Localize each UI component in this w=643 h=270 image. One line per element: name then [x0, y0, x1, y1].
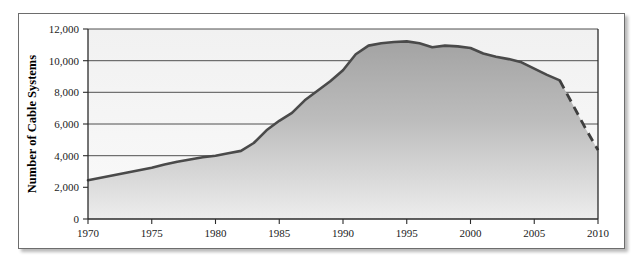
- x-tick-marks: [88, 219, 598, 224]
- chart-figure-card: 12,000 10,000 8,000 6,000 4,000 2,000 0 …: [18, 13, 625, 249]
- x-tick-label-1995: 1995: [396, 227, 419, 239]
- x-tick-label-1990: 1990: [332, 227, 355, 239]
- x-tick-labels: 1970 1975 1980 1985 1990 1995 2000 2005 …: [77, 227, 610, 239]
- y-tick-label-8000: 8,000: [54, 86, 79, 98]
- screenshot-root: 12,000 10,000 8,000 6,000 4,000 2,000 0 …: [0, 0, 643, 270]
- x-tick-label-1975: 1975: [141, 227, 164, 239]
- x-tick-label-2000: 2000: [460, 227, 483, 239]
- y-tick-label-4000: 4,000: [54, 150, 79, 162]
- x-tick-label-2005: 2005: [523, 227, 546, 239]
- x-tick-label-1970: 1970: [77, 227, 100, 239]
- y-tick-label-2000: 2,000: [54, 181, 79, 193]
- x-tick-label-1980: 1980: [205, 227, 228, 239]
- x-tick-label-2010: 2010: [587, 227, 610, 239]
- y-tick-marks: [83, 29, 88, 219]
- y-tick-label-12000: 12,000: [49, 23, 80, 35]
- y-tick-label-0: 0: [74, 213, 80, 225]
- y-axis-title: Number of Cable Systems: [25, 55, 39, 193]
- y-tick-labels: 12,000 10,000 8,000 6,000 4,000 2,000 0: [49, 23, 80, 225]
- y-tick-label-10000: 10,000: [49, 55, 80, 67]
- x-tick-label-1985: 1985: [268, 227, 291, 239]
- y-tick-label-6000: 6,000: [54, 118, 79, 130]
- cable-systems-area-chart: 12,000 10,000 8,000 6,000 4,000 2,000 0 …: [19, 14, 624, 248]
